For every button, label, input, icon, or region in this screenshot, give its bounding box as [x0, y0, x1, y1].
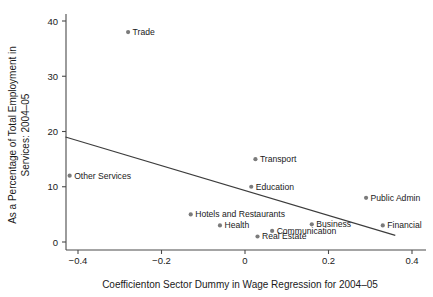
- data-point-label: Trade: [133, 27, 155, 37]
- data-point-marker: [249, 185, 253, 189]
- x-tick-label: 0.4: [405, 255, 418, 266]
- data-points: TradeOther ServicesTransportEducationPub…: [68, 27, 422, 241]
- data-point-label: Education: [256, 182, 294, 192]
- data-point-label: Real Estate: [262, 231, 307, 241]
- y-axis-title-line1: As a Percentage of Total Employment in: [7, 46, 18, 224]
- data-point-marker: [68, 174, 72, 178]
- y-tick-label: 30: [47, 71, 58, 82]
- data-point-label: Public Admin: [371, 193, 421, 203]
- data-point-marker: [253, 157, 257, 161]
- x-axis-ticks: [78, 250, 412, 254]
- x-tick-label: 0.2: [322, 255, 335, 266]
- y-tick-label: 10: [47, 181, 58, 192]
- x-tick-labels: −0.4−0.200.20.4: [69, 255, 419, 266]
- data-point-marker: [189, 212, 193, 216]
- x-axis-title: Coefficienton Sector Dummy in Wage Regre…: [102, 279, 378, 290]
- data-point-marker: [364, 196, 368, 200]
- x-tick-label: 0: [242, 255, 247, 266]
- data-point-marker: [126, 30, 130, 34]
- y-axis-ticks: [62, 21, 66, 242]
- y-tick-label: 0: [53, 237, 58, 248]
- scatter-chart: TradeOther ServicesTransportEducationPub…: [0, 0, 433, 297]
- y-tick-labels: 010203040: [47, 16, 58, 248]
- data-point-label: Transport: [260, 154, 297, 164]
- chart-canvas: TradeOther ServicesTransportEducationPub…: [0, 0, 433, 297]
- data-point-label: Financial: [387, 220, 421, 230]
- x-tick-label: −0.2: [152, 255, 171, 266]
- data-point-label: Other Services: [74, 171, 131, 181]
- y-tick-label: 20: [47, 126, 58, 137]
- data-point-marker: [381, 223, 385, 227]
- data-point-label: Health: [224, 220, 249, 230]
- y-tick-label: 40: [47, 16, 58, 27]
- data-point-label: Hotels and Restaurants: [195, 209, 285, 219]
- x-tick-label: −0.4: [69, 255, 88, 266]
- data-point-marker: [218, 223, 222, 227]
- y-axis-title-line2: Services: 2004–05: [20, 93, 31, 176]
- data-point-marker: [255, 234, 259, 238]
